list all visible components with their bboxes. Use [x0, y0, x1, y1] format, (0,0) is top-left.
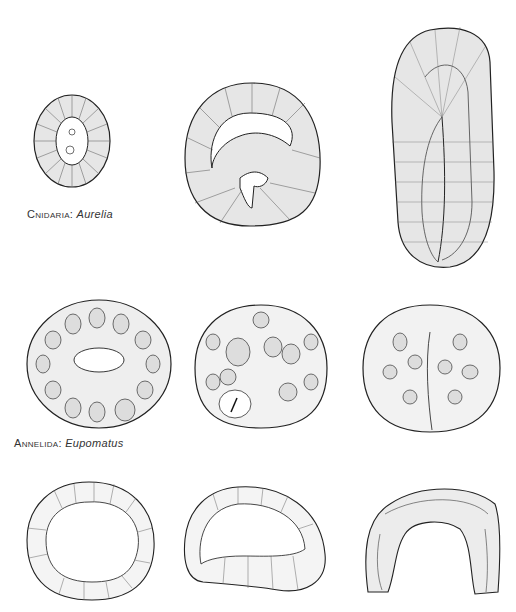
cnidaria-late-gastrula: [380, 22, 500, 272]
row-2-label: Annelida: Eupomatus: [14, 437, 124, 449]
row3-early-gastrula: [183, 484, 328, 596]
row-1-label: Cnidaria: Aurelia: [27, 208, 113, 220]
cnidaria-blastula: [30, 92, 114, 190]
genus-name: Aurelia: [77, 208, 113, 220]
genus-name: Eupomatus: [65, 437, 123, 449]
label-separator: :: [70, 208, 77, 220]
row3-blastula: [24, 478, 158, 602]
phylum-name: Annelida: [14, 437, 58, 449]
annelida-early-gastrula: [193, 302, 329, 430]
row3-late-gastrula: [360, 484, 502, 596]
annelida-blastula: [25, 298, 173, 430]
annelida-late-gastrula: [360, 302, 502, 434]
phylum-name: Cnidaria: [27, 208, 70, 220]
cnidaria-early-gastrula: [180, 78, 325, 228]
